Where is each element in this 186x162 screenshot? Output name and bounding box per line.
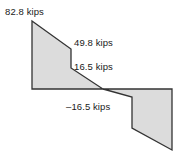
shear-force-diagram: 82.8 kips 49.8 kips 16.5 kips –16.5 kips [0,0,186,162]
label-positive-shear: 16.5 kips [74,61,113,72]
positive-shear-area [32,21,103,89]
negative-shear-area [103,89,172,150]
label-negative-shear: –16.5 kips [66,101,110,112]
label-max-shear: 82.8 kips [5,6,44,17]
diagram-canvas [0,0,186,162]
label-mid-shear: 49.8 kips [74,37,113,48]
